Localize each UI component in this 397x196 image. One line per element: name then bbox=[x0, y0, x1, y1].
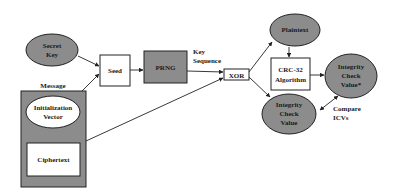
icv-star-label-line2: Check bbox=[341, 72, 360, 80]
crc32-label-line1: CRC-32 bbox=[278, 66, 303, 74]
init-vector-node: Initialization Vector bbox=[26, 96, 80, 128]
compare-icvs-line1: Compare bbox=[333, 105, 361, 113]
crc32-label-line2: Algorithm bbox=[275, 76, 306, 84]
edge-secret-key-to-seed bbox=[78, 56, 99, 66]
init-vector-label-line2: Vector bbox=[43, 113, 63, 121]
icv-star-label-line1: Integrity bbox=[338, 63, 365, 71]
wep-diagram: Secret Key Seed PRNG Key Sequence XOR Me… bbox=[0, 0, 397, 196]
key-sequence-line2: Sequence bbox=[193, 57, 221, 65]
icv-label-line3: Value bbox=[281, 119, 298, 127]
compare-icvs-label: Compare ICVs bbox=[333, 105, 361, 122]
icv-star-label-line3: Value* bbox=[341, 81, 362, 89]
icv-label-line1: Integrity bbox=[276, 101, 303, 109]
seed-label: Seed bbox=[108, 67, 122, 75]
compare-icvs-line2: ICVs bbox=[333, 114, 349, 122]
icv-star-node: Integrity Check Value* bbox=[325, 54, 377, 98]
icv-node: Integrity Check Value bbox=[262, 94, 316, 134]
ciphertext-node: Ciphertext bbox=[27, 143, 80, 176]
plaintext-node: Plaintext bbox=[270, 14, 320, 46]
edge-xor-to-plaintext bbox=[249, 42, 272, 72]
plaintext-label: Plaintext bbox=[282, 26, 309, 34]
secret-key-label-line2: Key bbox=[46, 51, 59, 59]
seed-node: Seed bbox=[100, 55, 130, 86]
edge-xor-to-icv bbox=[249, 77, 270, 97]
edge-message-to-xor bbox=[86, 78, 223, 141]
secret-key-node: Secret Key bbox=[26, 34, 78, 66]
xor-node: XOR bbox=[224, 69, 249, 80]
ciphertext-label: Ciphertext bbox=[37, 156, 70, 164]
prng-node: PRNG bbox=[144, 51, 187, 83]
key-sequence-line1: Key bbox=[193, 48, 206, 56]
icv-label-line2: Check bbox=[279, 110, 298, 118]
secret-key-label-line1: Secret bbox=[43, 42, 62, 50]
prng-label: PRNG bbox=[156, 64, 176, 72]
message-label: Message bbox=[40, 82, 65, 90]
xor-label: XOR bbox=[229, 72, 246, 80]
edge-prng-to-xor bbox=[187, 71, 223, 72]
key-sequence-label: Key Sequence bbox=[193, 48, 221, 65]
init-vector-label-line1: Initialization bbox=[34, 104, 73, 112]
crc32-node: CRC-32 Algorithm bbox=[271, 58, 310, 90]
